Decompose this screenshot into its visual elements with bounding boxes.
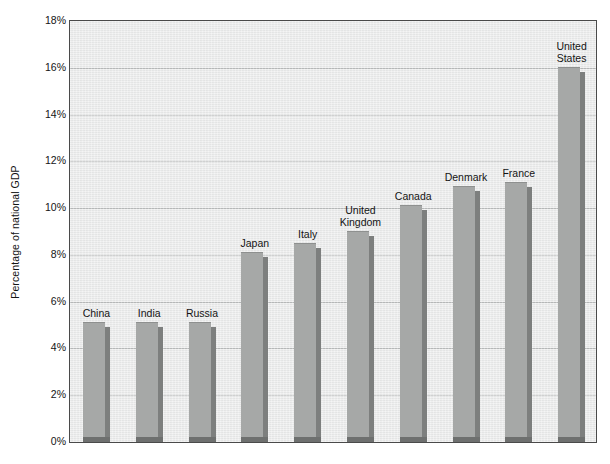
bar-category-label-line: United <box>340 204 381 216</box>
bar-category-label: India <box>138 307 161 319</box>
bar-body <box>558 67 580 442</box>
bars: ChinaIndiaRussiaJapanItalyUnitedKingdomC… <box>70 21 596 442</box>
bar-india[interactable]: India <box>136 323 163 442</box>
bar-shadow <box>527 187 532 442</box>
bar-category-label: Russia <box>186 307 218 319</box>
bar-category-label-line: Denmark <box>445 171 488 183</box>
bar-category-label-line: Italy <box>298 228 317 240</box>
bar-base-shadow <box>294 437 321 442</box>
bar-category-label: China <box>83 307 110 319</box>
bar-body <box>189 322 211 442</box>
bar-shadow <box>422 210 427 442</box>
bar-base-shadow <box>453 437 480 442</box>
bar-base-shadow <box>136 437 163 442</box>
bar-canada[interactable]: Canada <box>400 206 427 442</box>
bar-body <box>136 322 158 442</box>
bar-category-label: France <box>502 167 535 179</box>
bar-category-label: UnitedKingdom <box>340 204 381 228</box>
bar-category-label: Denmark <box>445 171 488 183</box>
y-axis-tick-label: 0% <box>28 436 66 447</box>
bar-shadow <box>263 257 268 442</box>
bar-body <box>83 322 105 442</box>
y-axis-tick-label: 12% <box>28 155 66 166</box>
bar-category-label-line: France <box>502 167 535 179</box>
y-axis-tick-label: 4% <box>28 342 66 353</box>
bar-china[interactable]: China <box>83 323 110 442</box>
bar-united-kingdom[interactable]: UnitedKingdom <box>347 232 374 442</box>
bar-base-shadow <box>83 437 110 442</box>
bar-shadow <box>316 248 321 442</box>
bar-denmark[interactable]: Denmark <box>453 187 480 442</box>
bar-category-label-line: United <box>556 40 586 52</box>
bar-body <box>347 231 369 442</box>
y-axis-tick-labels: 0%2%4%6%8%10%12%14%16%18% <box>28 0 66 464</box>
bar-body <box>505 182 527 442</box>
bar-shadow <box>369 236 374 442</box>
bar-base-shadow <box>558 437 585 442</box>
bar-russia[interactable]: Russia <box>189 323 216 442</box>
bar-united-states[interactable]: UnitedStates <box>558 68 585 442</box>
plot-area: ChinaIndiaRussiaJapanItalyUnitedKingdomC… <box>69 20 597 443</box>
bar-category-label-line: Russia <box>186 307 218 319</box>
bar-shadow <box>580 72 585 442</box>
y-axis-tick-label: 10% <box>28 202 66 213</box>
bar-italy[interactable]: Italy <box>294 244 321 442</box>
bar-shadow <box>475 191 480 442</box>
bar-chart: Percentage of national GDP 0%2%4%6%8%10%… <box>0 0 610 464</box>
bar-body <box>400 205 422 442</box>
bar-body <box>241 252 263 442</box>
bar-category-label-line: Kingdom <box>340 216 381 228</box>
bar-shadow <box>158 327 163 442</box>
bar-shadow <box>105 327 110 442</box>
bar-body <box>294 243 316 442</box>
bar-category-label: Japan <box>240 237 269 249</box>
y-axis-tick-label: 18% <box>28 15 66 26</box>
y-axis-tick-label: 16% <box>28 61 66 72</box>
bar-body <box>453 186 475 442</box>
bar-category-label-line: India <box>138 307 161 319</box>
bar-category-label: UnitedStates <box>556 40 586 64</box>
y-axis-title: Percentage of national GDP <box>4 0 26 464</box>
bar-base-shadow <box>400 437 427 442</box>
bar-category-label-line: Japan <box>240 237 269 249</box>
bar-france[interactable]: France <box>505 183 532 442</box>
bar-shadow <box>211 327 216 442</box>
bar-category-label-line: Canada <box>395 190 432 202</box>
bar-base-shadow <box>241 437 268 442</box>
bar-category-label: Italy <box>298 228 317 240</box>
y-axis-title-text: Percentage of national GDP <box>9 165 21 298</box>
bar-base-shadow <box>189 437 216 442</box>
bar-category-label: Canada <box>395 190 432 202</box>
bar-base-shadow <box>347 437 374 442</box>
bar-category-label-line: States <box>556 52 586 64</box>
bar-category-label-line: China <box>83 307 110 319</box>
y-axis-tick-label: 6% <box>28 295 66 306</box>
bar-japan[interactable]: Japan <box>241 253 268 442</box>
bar-base-shadow <box>505 437 532 442</box>
y-axis-tick-label: 8% <box>28 248 66 259</box>
y-axis-tick-label: 2% <box>28 389 66 400</box>
y-axis-tick-label: 14% <box>28 108 66 119</box>
